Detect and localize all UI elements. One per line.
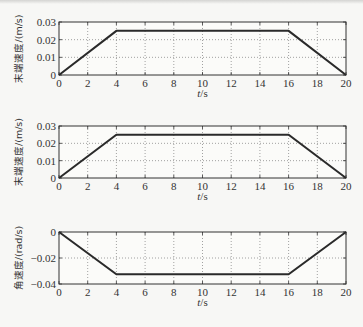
velocity-plot-1: 0246810121416182000.010.020.03t/s末端速度/(m… (13, 14, 352, 99)
x-tick-label: 8 (171, 77, 177, 89)
x-tick-label: 2 (85, 77, 91, 89)
x-tick-label: 4 (114, 180, 120, 192)
x-tick-label: 14 (254, 286, 266, 298)
x-tick-label: 16 (283, 180, 295, 192)
y-tick-label: 0.03 (37, 16, 57, 28)
x-tick-label: 4 (114, 77, 120, 89)
x-tick-label: 14 (254, 180, 266, 192)
x-tick-label: 14 (254, 77, 266, 89)
y-tick-label: 0.01 (37, 155, 56, 167)
x-tick-label: 4 (114, 286, 120, 298)
velocity-plot-2: 0246810121416182000.010.020.03t/s末端速度/(m… (13, 118, 352, 202)
x-tick-label: 12 (226, 180, 237, 192)
x-tick-label: 12 (226, 286, 237, 298)
x-tick-label: 20 (341, 77, 353, 89)
y-axis-label: 末端速度/(m/s) (13, 118, 24, 186)
y-tick-label: 0 (51, 172, 57, 184)
x-tick-label: 18 (312, 180, 324, 192)
x-tick-label: 12 (226, 77, 237, 89)
x-tick-label: 20 (341, 286, 353, 298)
x-tick-label: 6 (142, 77, 148, 89)
x-tick-label: 16 (283, 77, 295, 89)
y-tick-label: −0.02 (31, 252, 56, 264)
chart-figure: 0246810121416182000.010.020.03t/s末端速度/(m… (0, 0, 363, 327)
x-tick-label: 16 (283, 286, 295, 298)
angular-velocity-plot: 02468101214161820−0.04−0.020t/s角速度/(rad/… (13, 226, 352, 308)
y-tick-label: 0.02 (37, 137, 56, 149)
y-axis-label: 角速度/(rad/s) (13, 226, 24, 291)
y-tick-label: −0.04 (31, 278, 57, 290)
y-tick-label: 0 (51, 69, 57, 81)
x-tick-label: 20 (341, 180, 353, 192)
x-tick-label: 2 (85, 286, 91, 298)
x-tick-label: 0 (56, 77, 62, 89)
y-tick-label: 0 (51, 226, 57, 238)
x-tick-label: 18 (312, 77, 324, 89)
x-tick-label: 0 (56, 180, 62, 192)
x-axis-label: t/s (197, 296, 207, 308)
x-tick-label: 6 (142, 180, 148, 192)
x-tick-label: 18 (312, 286, 324, 298)
x-tick-label: 2 (85, 180, 91, 192)
x-axis-label: t/s (197, 87, 207, 99)
x-tick-label: 8 (171, 180, 177, 192)
x-tick-label: 8 (171, 286, 177, 298)
x-tick-label: 0 (56, 286, 62, 298)
x-axis-label: t/s (197, 190, 207, 202)
x-tick-label: 6 (142, 286, 148, 298)
y-tick-label: 0.02 (37, 34, 56, 46)
y-tick-label: 0.01 (37, 51, 56, 63)
y-tick-label: 0.03 (37, 120, 57, 132)
y-axis-label: 末端速度/(m/s) (13, 14, 24, 82)
